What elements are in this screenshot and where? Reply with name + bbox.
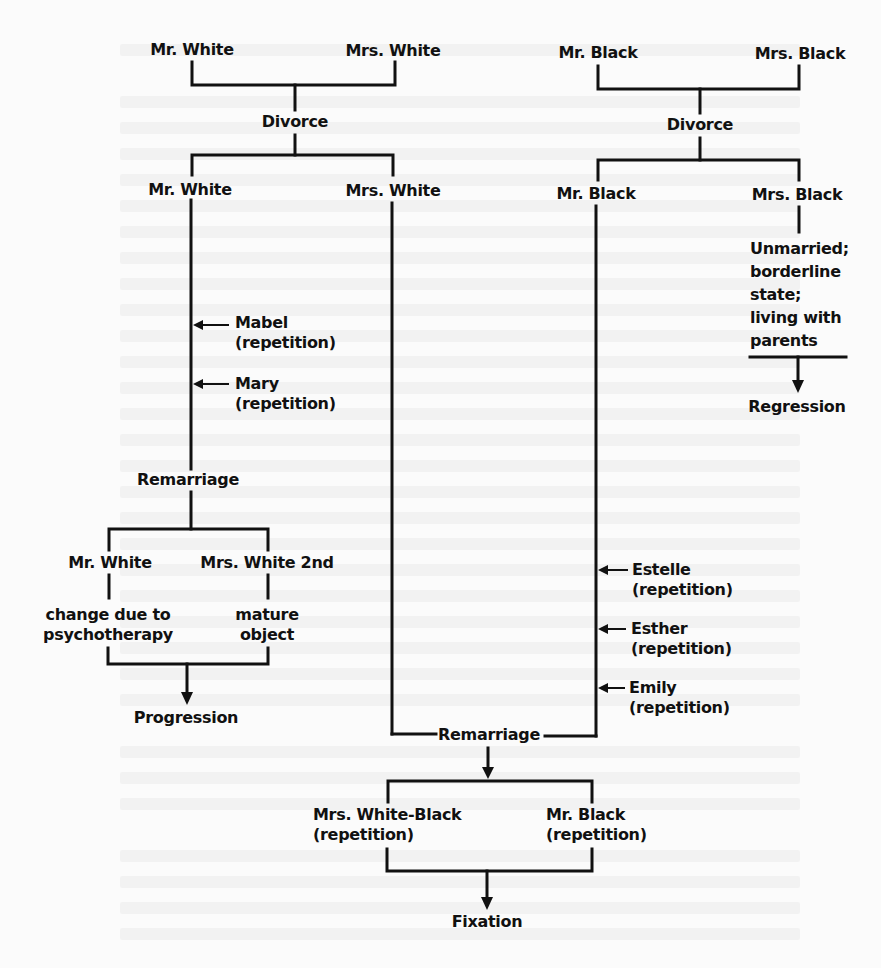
joint-remarriage-arrowhead — [482, 767, 494, 779]
mrs-black-state-line5: parents — [750, 329, 849, 352]
mrs-white-black-label: Mrs. White-Black (repetition) — [313, 805, 461, 845]
fixation-bracket — [387, 849, 592, 871]
mrs-white-black-note: (repetition) — [313, 825, 461, 845]
mrs-white-2nd-note: mature object — [235, 605, 298, 645]
regression-arrowhead — [792, 380, 804, 393]
mrs-black-state-line2: borderline — [750, 260, 849, 283]
mrs-black-state-line4: living with — [750, 306, 849, 329]
mrs-black-state-line3: state; — [750, 283, 849, 306]
mr-black-after-divorce-label: Mr. Black — [556, 184, 635, 204]
black-divorce-label: Divorce — [667, 115, 733, 135]
estelle-note: (repetition) — [632, 580, 733, 600]
mabel-label: Mabel (repetition) — [235, 313, 336, 353]
mr-black-joint-label: Mr. Black (repetition) — [546, 805, 647, 845]
joint-remarriage-label: Remarriage — [438, 725, 540, 745]
estelle-name: Estelle — [632, 560, 733, 580]
mrs-black-after-divorce-label: Mrs. Black — [752, 185, 843, 205]
white-divorce-label: Divorce — [262, 112, 328, 132]
regression-label: Regression — [748, 397, 845, 417]
mr-black-joint-name: Mr. Black — [546, 805, 647, 825]
mary-label: Mary (repetition) — [235, 374, 336, 414]
estelle-label: Estelle (repetition) — [632, 560, 733, 600]
white-remarriage-bracket — [109, 529, 268, 550]
mrs-white-label: Mrs. White — [345, 41, 440, 61]
mrs-black-state: Unmarried; borderline state; living with… — [750, 237, 849, 352]
mrs-black-state-line1: Unmarried; — [750, 237, 849, 260]
mr-white-second-label: Mr. White — [68, 553, 152, 573]
progression-arrowhead — [181, 692, 193, 705]
mrs-white-2nd-note-line2: object — [235, 625, 298, 645]
mrs-white-black-name: Mrs. White-Black — [313, 805, 461, 825]
joint-marriage-bracket — [388, 781, 592, 802]
esther-name: Esther — [631, 619, 732, 639]
mabel-name: Mabel — [235, 313, 336, 333]
white-marriage-bracket — [192, 62, 395, 85]
mr-black-joint-note: (repetition) — [546, 825, 647, 845]
black-divorce-bracket — [598, 160, 799, 180]
mr-white-change-line1: change due to — [43, 605, 173, 625]
progression-bracket — [108, 648, 268, 664]
mary-name: Mary — [235, 374, 336, 394]
emily-name: Emily — [629, 678, 730, 698]
mr-white-change-note: change due to psychotherapy — [43, 605, 173, 645]
mary-note: (repetition) — [235, 394, 336, 414]
mr-white-change-line2: psychotherapy — [43, 625, 173, 645]
mary-arrowhead — [193, 379, 203, 389]
mrs-white-2nd-note-line1: mature — [235, 605, 298, 625]
mabel-arrowhead — [193, 320, 203, 330]
emily-label: Emily (repetition) — [629, 678, 730, 718]
fixation-arrowhead — [481, 897, 493, 910]
mrs-white-2nd-label: Mrs. White 2nd — [200, 553, 333, 573]
mr-white-after-divorce-label: Mr. White — [148, 180, 232, 200]
progression-label: Progression — [134, 708, 238, 728]
white-divorce-bracket — [192, 155, 393, 175]
mr-black-label: Mr. Black — [558, 43, 637, 63]
fixation-label: Fixation — [452, 912, 523, 932]
mrs-white-after-divorce-label: Mrs. White — [345, 181, 440, 201]
emily-arrowhead — [598, 683, 608, 693]
esther-note: (repetition) — [631, 639, 732, 659]
black-marriage-bracket — [598, 66, 799, 89]
emily-note: (repetition) — [629, 698, 730, 718]
white-remarriage-label: Remarriage — [137, 470, 239, 490]
esther-label: Esther (repetition) — [631, 619, 732, 659]
esther-arrowhead — [598, 624, 608, 634]
mabel-note: (repetition) — [235, 333, 336, 353]
mr-white-label: Mr. White — [150, 40, 234, 60]
mrs-black-label: Mrs. Black — [755, 44, 846, 64]
estelle-arrowhead — [598, 565, 608, 575]
